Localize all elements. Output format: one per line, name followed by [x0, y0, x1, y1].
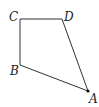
- quadrilateral-diagram: A B C D: [0, 0, 99, 107]
- label-d: D: [63, 10, 74, 24]
- label-c: C: [9, 10, 18, 24]
- edge-da: [62, 19, 88, 91]
- label-b: B: [9, 64, 19, 78]
- edge-ab: [20, 65, 88, 91]
- label-a: A: [88, 92, 98, 106]
